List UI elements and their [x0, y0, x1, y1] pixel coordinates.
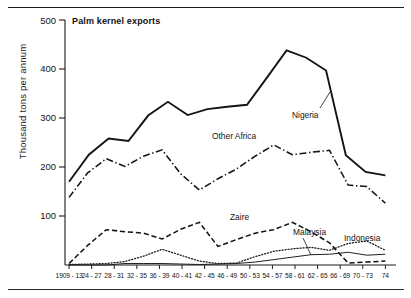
series-paths: [69, 50, 385, 265]
leader-line-malaysia: [303, 238, 311, 255]
series-path-zaire: [69, 222, 385, 263]
series-path-nigeria: [69, 50, 385, 181]
leader-line-nigeria: [320, 92, 330, 108]
figure-container: Thousand tons per annum 500 400 300 200 …: [0, 0, 411, 298]
series-path-other-africa: [69, 145, 385, 203]
x-tick-label: 74: [355, 272, 411, 279]
y-tick-marks: [59, 20, 65, 216]
chart-svg: [0, 0, 411, 298]
axes: [59, 20, 396, 269]
x-tick-marks: [69, 265, 385, 269]
plot-area: [0, 0, 411, 298]
